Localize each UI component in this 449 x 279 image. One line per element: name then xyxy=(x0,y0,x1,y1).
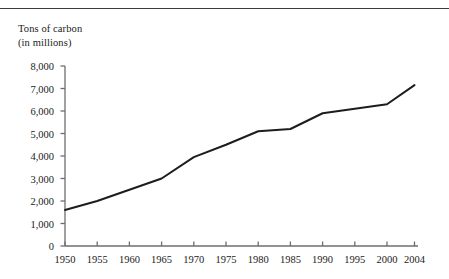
x-axis-tick-label: 1950 xyxy=(55,254,76,265)
y-axis-tick-label: 7,000 xyxy=(0,83,54,94)
y-axis-tick-label: 0 xyxy=(0,241,54,252)
y-axis-tick-label: 1,000 xyxy=(0,218,54,229)
x-axis-tick-label: 1990 xyxy=(312,254,333,265)
x-axis-tick-label: 1975 xyxy=(216,254,237,265)
x-axis-tick-label: 1980 xyxy=(248,254,269,265)
carbon-emissions-line xyxy=(65,85,415,210)
x-axis-tick-marks xyxy=(65,242,415,247)
x-axis-tick-label: 1960 xyxy=(119,254,140,265)
y-axis-tick-label: 3,000 xyxy=(0,173,54,184)
x-axis-tick-label: 2004 xyxy=(404,254,425,265)
x-axis-tick-label: 1955 xyxy=(87,254,108,265)
x-axis-tick-label: 1970 xyxy=(183,254,204,265)
y-axis-tick-marks xyxy=(61,66,66,246)
carbon-emissions-figure: Tons of carbon (in millions) 01,0002,000… xyxy=(0,0,449,279)
y-axis-tick-label: 4,000 xyxy=(0,151,54,162)
y-axis-tick-label: 8,000 xyxy=(0,61,54,72)
x-axis-tick-label: 1985 xyxy=(280,254,301,265)
x-axis-tick-label: 1965 xyxy=(151,254,172,265)
y-axis-tick-label: 2,000 xyxy=(0,196,54,207)
plot-area xyxy=(0,0,449,279)
chart-svg xyxy=(0,0,449,279)
axis-lines xyxy=(65,66,418,246)
x-axis-tick-label: 1995 xyxy=(344,254,365,265)
x-axis-tick-label: 2000 xyxy=(377,254,398,265)
y-axis-tick-label: 5,000 xyxy=(0,128,54,139)
y-axis-tick-label: 6,000 xyxy=(0,106,54,117)
